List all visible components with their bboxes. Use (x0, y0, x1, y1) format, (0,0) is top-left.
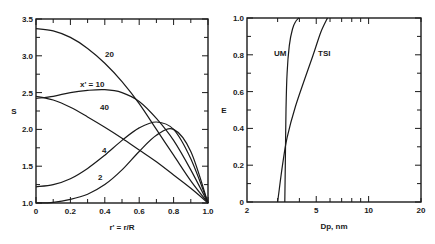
x-tick-label: 0.2 (65, 207, 77, 216)
y-axis-label: E (221, 106, 227, 115)
x-tick-label: 0.8 (168, 207, 180, 216)
curve-label-20: 20 (105, 50, 114, 59)
x-tick-label: 5 (314, 206, 319, 215)
curve-label-2: 2 (98, 173, 103, 182)
plot-frame (247, 18, 421, 202)
x-tick-label: 0 (34, 207, 39, 216)
y-tick-label: 3.0 (22, 52, 34, 61)
plot-frame (36, 19, 208, 203)
x-tick-label: 1.0 (202, 207, 214, 216)
y-tick-label: 1.0 (233, 14, 245, 23)
curve-label-TSI: TSI (318, 49, 330, 58)
curve-20 (36, 29, 208, 203)
right-chart: 25102000.20.40.60.81.0EDp, nmUMTSI (221, 14, 426, 231)
x-tick-label: 0.6 (134, 207, 146, 216)
y-tick-label: 1.0 (22, 199, 34, 208)
x-tick-label: 0.4 (99, 207, 111, 216)
curve-UM (285, 18, 299, 202)
y-axis-label: S (11, 107, 17, 116)
curve-40 (36, 96, 208, 203)
y-tick-label: 0 (240, 198, 245, 207)
curve-4 (36, 122, 208, 203)
x-tick-label: 10 (364, 206, 373, 215)
y-tick-label: 0.2 (233, 161, 245, 170)
x-tick-label: 20 (417, 206, 426, 215)
x-axis-label: r' = r/R (109, 223, 134, 232)
left-chart: 00.20.40.60.81.01.01.52.02.53.03.5Sr' = … (11, 15, 214, 232)
y-tick-label: 2.5 (22, 89, 34, 98)
x-axis-label: Dp, nm (320, 222, 347, 231)
y-tick-label: 2.0 (22, 125, 34, 134)
y-tick-label: 3.5 (22, 15, 34, 24)
curve-10 (36, 90, 208, 203)
curve-label-UM: UM (274, 49, 287, 58)
figure: 00.20.40.60.81.01.01.52.02.53.03.5Sr' = … (0, 0, 435, 244)
curve-label-10: x' = 10 (80, 80, 105, 89)
y-tick-label: 0.6 (233, 88, 245, 97)
y-tick-label: 0.8 (233, 51, 245, 60)
curve-label-40: 40 (100, 103, 109, 112)
curve-label-4: 4 (102, 146, 107, 155)
y-tick-label: 1.5 (22, 162, 34, 171)
y-tick-label: 0.4 (233, 124, 245, 133)
x-tick-label: 2 (245, 206, 250, 215)
